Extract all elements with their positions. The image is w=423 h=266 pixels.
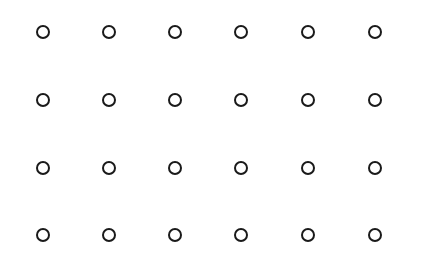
circle-outline-icon [234, 228, 248, 242]
circle-outline-icon [234, 161, 248, 175]
circle-outline-icon [102, 161, 116, 175]
circle-outline-icon [102, 228, 116, 242]
circle-outline-icon [301, 228, 315, 242]
circle-outline-icon [102, 25, 116, 39]
circle-outline-icon [234, 25, 248, 39]
circle-outline-icon [102, 93, 116, 107]
circle-outline-icon [368, 25, 382, 39]
circle-outline-icon [368, 228, 382, 242]
circle-outline-icon [36, 228, 50, 242]
circle-outline-icon [36, 93, 50, 107]
circle-outline-icon [168, 228, 182, 242]
circle-outline-icon [368, 93, 382, 107]
circle-outline-icon [301, 93, 315, 107]
circle-outline-icon [168, 25, 182, 39]
circle-outline-icon [301, 161, 315, 175]
circle-grid [0, 0, 423, 266]
circle-outline-icon [168, 161, 182, 175]
circle-outline-icon [168, 93, 182, 107]
circle-outline-icon [36, 25, 50, 39]
circle-outline-icon [368, 161, 382, 175]
circle-outline-icon [36, 161, 50, 175]
circle-outline-icon [234, 93, 248, 107]
circle-outline-icon [301, 25, 315, 39]
